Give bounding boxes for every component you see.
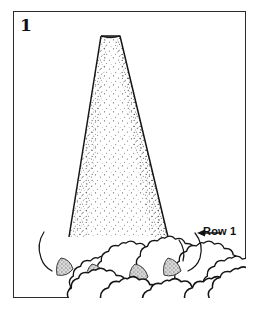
cone-shape — [63, 31, 178, 246]
row1-callout-label: Row 1 — [203, 225, 236, 237]
cone-and-ball-illustration — [13, 11, 246, 298]
figure-canvas: 1 — [0, 0, 258, 310]
